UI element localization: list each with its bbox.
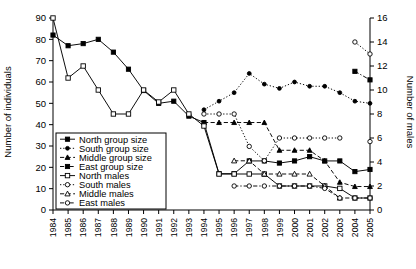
data-point (141, 88, 145, 92)
x-tick-label: 2003 (335, 218, 345, 237)
data-point (232, 112, 236, 116)
y2-tick-label: 4 (377, 156, 382, 167)
chart-legend: North group sizeSouth group sizeMiddle g… (56, 133, 166, 209)
data-point (277, 161, 281, 165)
data-point (202, 124, 206, 128)
data-point (353, 196, 357, 200)
y2-tick-label: 10 (377, 84, 388, 95)
data-point (66, 76, 70, 80)
data-point (217, 99, 221, 103)
data-point (247, 72, 251, 76)
data-point (51, 33, 55, 37)
data-point (353, 170, 357, 174)
data-point (65, 137, 69, 141)
y-axis-label: Number of individuals (2, 66, 13, 158)
data-point (307, 136, 311, 140)
data-point (65, 173, 69, 177)
x-tick-label: 1995 (214, 218, 224, 237)
data-point (81, 64, 85, 68)
y-tick-label: 10 (35, 183, 46, 194)
x-tick-label: 1990 (139, 218, 149, 237)
y-tick-label: 30 (35, 140, 46, 151)
data-point (111, 50, 115, 54)
data-point (217, 112, 221, 116)
data-point (126, 112, 130, 116)
data-point (323, 186, 327, 190)
data-point (202, 112, 206, 116)
x-tick-label: 2000 (290, 218, 300, 237)
y2-tick-label: 12 (377, 60, 388, 71)
data-point (353, 40, 357, 44)
data-point (368, 139, 372, 143)
data-point (96, 37, 100, 41)
x-tick-label: 2004 (350, 218, 360, 237)
data-point (338, 136, 342, 140)
x-tick-label: 1996 (229, 218, 239, 237)
x-tick-label: 1992 (169, 218, 179, 237)
data-point (187, 112, 191, 116)
legend-label: East males (79, 198, 125, 208)
y-tick-label: 40 (35, 119, 46, 130)
x-tick-label: 2001 (305, 218, 315, 237)
x-tick-label: 1988 (109, 218, 119, 237)
data-point (323, 136, 327, 140)
data-point (353, 69, 357, 73)
x-tick-label: 1985 (63, 218, 73, 237)
data-point (66, 146, 70, 150)
data-point (368, 196, 372, 200)
y2-tick-label: 16 (377, 12, 388, 23)
x-tick-label: 1994 (199, 218, 209, 237)
data-point (232, 172, 236, 176)
data-point (368, 52, 372, 56)
y-tick-label: 90 (35, 12, 46, 23)
x-tick-label: 2002 (320, 218, 330, 237)
chart-canvas: Number of individuals Number of males 01… (0, 0, 416, 269)
data-point (232, 184, 236, 188)
x-tick-label: 1991 (154, 218, 164, 237)
y2-tick-label: 8 (377, 108, 382, 119)
data-point (292, 159, 296, 163)
data-point (202, 108, 206, 112)
data-point (247, 144, 251, 148)
data-point (217, 172, 221, 176)
y-tick-label: 50 (35, 98, 46, 109)
y2-tick-label: 2 (377, 180, 382, 191)
data-point (338, 196, 342, 200)
x-tick-label: 1998 (260, 218, 270, 237)
data-point (262, 184, 266, 188)
data-point (66, 44, 70, 48)
data-point (323, 84, 327, 88)
data-point (368, 78, 372, 82)
data-point (65, 164, 69, 168)
y2-tick-label: 0 (377, 204, 382, 215)
data-point (277, 136, 281, 140)
data-point (292, 184, 296, 188)
data-point (368, 101, 372, 105)
x-tick-label: 1984 (48, 218, 58, 237)
data-point (307, 184, 311, 188)
y2-tick-label: 6 (377, 132, 382, 143)
x-tick-label: 1997 (244, 218, 254, 237)
data-point (338, 186, 342, 190)
y-tick-label: 0 (41, 204, 46, 215)
data-point (156, 100, 160, 104)
x-tick-label: 1993 (184, 218, 194, 237)
x-tick-label: 1987 (93, 218, 103, 237)
data-point (293, 80, 297, 84)
data-point (65, 183, 69, 187)
y-tick-label: 20 (35, 162, 46, 173)
data-point (247, 184, 251, 188)
y-tick-label: 70 (35, 55, 46, 66)
data-point (81, 42, 85, 46)
x-tick-label: 1989 (124, 218, 134, 237)
data-point (338, 91, 342, 95)
data-point (308, 84, 312, 88)
data-point (65, 201, 69, 205)
data-point (111, 112, 115, 116)
data-point (262, 82, 266, 86)
data-point (172, 99, 176, 103)
x-tick-label: 1986 (78, 218, 88, 237)
data-point (172, 88, 176, 92)
data-point (247, 172, 251, 176)
data-point (308, 155, 312, 159)
